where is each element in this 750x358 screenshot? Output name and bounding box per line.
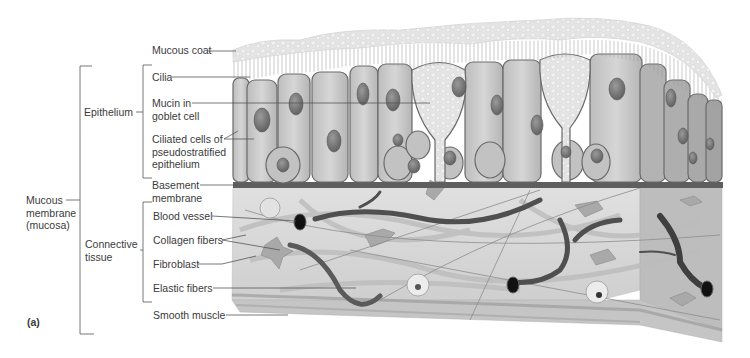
group-connective-line2: tissue [85,251,138,264]
group-mucosa-line1: Mucous [26,194,76,207]
label-basement-line2: membrane [152,192,202,205]
label-elastic-fibers: Elastic fibers [153,282,213,295]
epithelium-layer [233,54,722,183]
label-smooth-muscle: Smooth muscle [153,309,225,322]
label-ciliated-line1: Ciliated cells of [152,133,226,146]
group-connective-tissue: Connective tissue [85,238,138,263]
label-blood-vessel: Blood vessel [153,210,213,223]
label-ciliated-line3: epithelium [152,158,226,171]
panel-label: (a) [27,316,40,329]
label-cilia: Cilia [152,71,172,84]
label-mucin-line2: goblet cell [152,110,199,123]
label-basement-line1: Basement [152,179,202,192]
label-ciliated-cells: Ciliated cells of pseudostratified epith… [152,133,226,171]
group-mucous-membrane: Mucous membrane (mucosa) [26,194,76,232]
label-collagen-fibers: Collagen fibers [153,234,223,247]
tissue-illustration [0,0,750,358]
group-mucosa-line2: membrane [26,207,76,220]
basement-membrane [233,182,723,188]
label-mucous-coat: Mucous coat [152,44,212,57]
label-ciliated-line2: pseudostratified [152,146,226,159]
label-mucin-line1: Mucin in [152,97,199,110]
label-mucin-goblet-cell: Mucin in goblet cell [152,97,199,122]
group-mucosa-line3: (mucosa) [26,219,76,232]
connective-tissue-layer [232,180,722,342]
label-fibroblast: Fibroblast [153,258,199,271]
blood-vessel-cross-section [294,214,306,230]
group-connective-line1: Connective [85,238,138,251]
group-epithelium: Epithelium [84,106,133,119]
label-basement-membrane: Basement membrane [152,179,202,204]
